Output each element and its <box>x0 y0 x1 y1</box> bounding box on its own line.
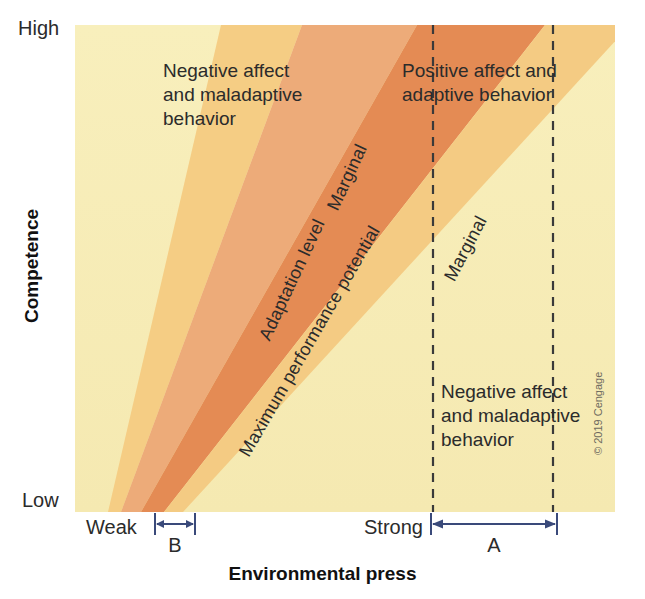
plot-area: Negative affect and maladaptive behavior… <box>75 25 615 512</box>
x-axis-weak-label: Weak <box>86 516 137 539</box>
measure-b-label: B <box>152 534 198 557</box>
figure-container: Negative affect and maladaptive behavior… <box>0 0 645 599</box>
region-label-upper-left: Negative affect and maladaptive behavior <box>163 59 302 131</box>
copyright-notice: © 2019 Cengage <box>592 335 604 455</box>
y-axis-title: Competence <box>21 186 43 346</box>
measure-b-arrow <box>152 512 198 536</box>
measure-a-label: A <box>428 534 560 557</box>
x-axis-strong-label: Strong <box>364 516 423 539</box>
region-label-lower-right: Negative affect and maladaptive behavior <box>441 380 580 452</box>
y-axis-low-label: Low <box>22 489 59 512</box>
y-axis-high-label: High <box>18 17 59 40</box>
x-axis-title: Environmental press <box>0 563 645 585</box>
region-label-upper-right: Positive affect and adaptive behavior <box>402 59 557 107</box>
measure-a-arrow <box>428 512 560 536</box>
